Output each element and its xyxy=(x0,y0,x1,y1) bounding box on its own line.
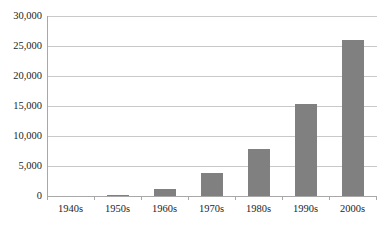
bar-1960s xyxy=(154,189,176,196)
bar-1970s xyxy=(201,173,223,196)
x-tick-label-1970s: 1970s xyxy=(188,203,235,215)
x-tick-6 xyxy=(329,196,330,200)
bar-chart: 30,000 25,000 20,000 15,000 10,000 5,000… xyxy=(0,0,386,230)
bar-2000s xyxy=(342,40,364,196)
y-tick-label-30000: 30,000 xyxy=(13,11,42,22)
x-tick-7 xyxy=(376,196,377,200)
gridline-baseline-0 xyxy=(47,196,377,197)
y-tick-label-25000: 25,000 xyxy=(13,41,42,52)
x-tick-label-1960s: 1960s xyxy=(141,203,188,215)
x-tick-5 xyxy=(282,196,283,200)
y-axis-labels: 30,000 25,000 20,000 15,000 10,000 5,000… xyxy=(0,0,42,230)
y-tick-label-0: 0 xyxy=(37,191,42,202)
x-tick-0 xyxy=(47,196,48,200)
bar-1980s xyxy=(248,149,270,196)
x-tick-4 xyxy=(235,196,236,200)
x-tick-2 xyxy=(141,196,142,200)
bars-layer xyxy=(47,16,377,196)
y-tick-label-5000: 5,000 xyxy=(18,161,42,172)
y-tick-label-20000: 20,000 xyxy=(13,71,42,82)
bar-1990s xyxy=(295,104,317,196)
y-tick-label-15000: 15,000 xyxy=(13,101,42,112)
x-tick-1 xyxy=(94,196,95,200)
x-tick-label-1980s: 1980s xyxy=(235,203,282,215)
bar-1950s xyxy=(107,195,129,196)
y-tick-label-10000: 10,000 xyxy=(13,131,42,142)
x-tick-3 xyxy=(188,196,189,200)
x-tick-label-2000s: 2000s xyxy=(329,203,376,215)
x-tick-label-1990s: 1990s xyxy=(282,203,329,215)
x-tick-label-1940s: 1940s xyxy=(47,203,94,215)
x-tick-label-1950s: 1950s xyxy=(94,203,141,215)
